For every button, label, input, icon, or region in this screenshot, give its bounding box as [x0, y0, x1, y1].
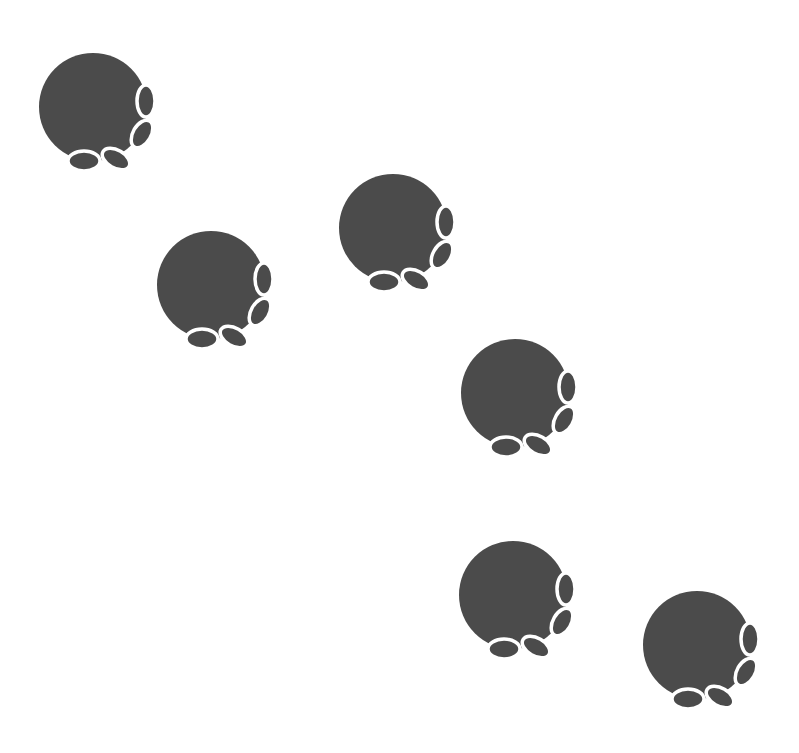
paw-toe-4: [672, 689, 704, 709]
paw-toe-4: [68, 151, 100, 171]
paw-toe-4: [368, 272, 400, 292]
paw-toe-1: [137, 85, 155, 117]
paw-toe-1: [255, 263, 273, 295]
paw-toe-1: [741, 623, 759, 655]
paw-toe-4: [488, 639, 520, 659]
paw-toe-1: [559, 371, 577, 403]
paw-toe-4: [186, 329, 218, 349]
paw-toe-4: [490, 437, 522, 457]
paw-print-trail: [0, 0, 799, 753]
paw-toe-1: [557, 573, 575, 605]
paw-toe-1: [437, 206, 455, 238]
